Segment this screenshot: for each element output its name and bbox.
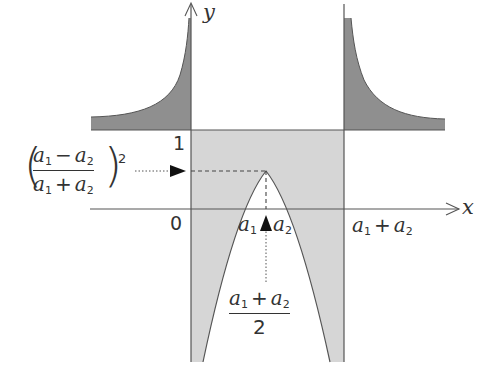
midpoint-denominator: 2 <box>253 317 266 337</box>
y-axis-label: y <box>203 2 215 23</box>
midpoint-fraction-bar <box>229 313 290 314</box>
midpoint-fraction: a1+a2 2 <box>229 288 290 337</box>
midpoint-numerator: a1+a2 <box>229 288 290 310</box>
left-exponent: 2 <box>118 152 126 165</box>
origin-label: 0 <box>170 214 182 233</box>
left-fraction-numerator: a1−a2 <box>33 145 94 167</box>
left-dark-region <box>91 18 191 130</box>
left-fraction-denominator: a1+a2 <box>33 174 94 196</box>
x-axis-label: x <box>462 197 474 218</box>
a1-label: a1 <box>238 214 257 236</box>
left-arrowhead-icon <box>170 165 186 177</box>
left-fraction-bar <box>33 170 94 171</box>
a2-label: a2 <box>273 214 292 236</box>
right-dark-region <box>344 18 445 130</box>
left-fraction: a1−a2 a1+a2 <box>33 145 94 196</box>
y-one-label: 1 <box>173 134 185 153</box>
a1-plus-a2-label: a1+a2 <box>352 215 413 237</box>
